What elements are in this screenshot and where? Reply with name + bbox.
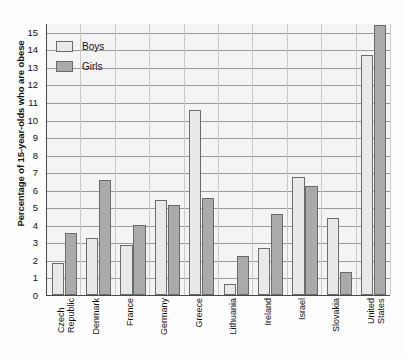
x-axis-label-germany: Germany — [160, 298, 170, 335]
bar-boys-ireland — [258, 248, 270, 295]
x-axis-label-lithuania: Lithuania — [229, 298, 239, 335]
category-separator — [287, 24, 288, 295]
y-axis-tick-label: 11 — [14, 98, 38, 108]
bar-boys-denmark — [86, 238, 98, 295]
y-axis-tick-label: 13 — [14, 63, 38, 73]
bar-boys-greece — [189, 110, 201, 295]
y-axis-tick-label: 6 — [14, 186, 38, 196]
x-axis-label-greece: Greece — [195, 298, 205, 328]
y-axis-tick-label: 12 — [14, 80, 38, 90]
category-separator — [356, 24, 357, 295]
bar-chart: Percentage of 15-year-olds who are obese… — [0, 0, 403, 359]
legend-label-boys: Boys — [82, 41, 104, 52]
category-separator — [390, 24, 391, 295]
legend-swatch-girls — [56, 61, 73, 72]
y-axis-tick-label: 4 — [14, 221, 38, 231]
y-axis-tick-label: 3 — [14, 238, 38, 248]
bar-boys-lithuania — [224, 284, 236, 295]
x-axis-label-ireland: Ireland — [264, 298, 274, 326]
y-axis-tick-label: 2 — [14, 256, 38, 266]
y-axis-tick-label: 1 — [14, 273, 38, 283]
y-axis-tick-label: 9 — [14, 133, 38, 143]
y-axis-tick-label: 8 — [14, 151, 38, 161]
bar-girls-france — [133, 225, 145, 295]
legend-swatch-boys — [56, 41, 73, 52]
y-axis-tick-label: 7 — [14, 168, 38, 178]
bar-girls-greece — [202, 198, 214, 295]
x-axis-label-slovakia: Slovakia — [332, 298, 342, 332]
category-separator — [218, 24, 219, 295]
y-axis-tick-label: 10 — [14, 116, 38, 126]
y-axis-tick-label: 5 — [14, 203, 38, 213]
category-separator — [252, 24, 253, 295]
x-axis-label-france: France — [126, 298, 136, 326]
x-axis-tick-labels: CzechRepublicDenmarkFranceGermanyGreeceL… — [46, 298, 390, 359]
bar-boys-france — [120, 245, 132, 295]
x-axis-label-denmark: Denmark — [92, 298, 102, 335]
legend-item-boys: Boys — [56, 38, 104, 55]
bar-girls-lithuania — [237, 256, 249, 295]
bar-girls-ireland — [271, 214, 283, 295]
x-axis-label-israel: Israel — [298, 298, 308, 320]
bar-girls-germany — [168, 205, 180, 295]
chart-legend: Boys Girls — [56, 38, 104, 78]
category-separator — [321, 24, 322, 295]
legend-item-girls: Girls — [56, 58, 104, 75]
bar-boys-czech-republic — [52, 263, 64, 295]
bar-boys-slovakia — [327, 218, 339, 295]
bar-girls-united-states — [374, 25, 386, 295]
bar-boys-germany — [155, 200, 167, 295]
bar-boys-united-states — [361, 55, 373, 295]
bar-boys-israel — [292, 177, 304, 295]
bar-girls-denmark — [99, 180, 111, 295]
bar-girls-slovakia — [340, 272, 352, 295]
x-axis-label-czech-republic: CzechRepublic — [57, 298, 76, 333]
category-separator — [115, 24, 116, 295]
y-axis-tick-labels: 0123456789101112131415 — [0, 24, 42, 296]
bar-girls-czech-republic — [65, 233, 77, 295]
x-axis-label-united-states: UnitedStates — [367, 298, 386, 324]
category-separator — [149, 24, 150, 295]
y-axis-tick-label: 0 — [14, 291, 38, 301]
y-axis-tick-label: 14 — [14, 45, 38, 55]
category-separator — [184, 24, 185, 295]
legend-label-girls: Girls — [82, 61, 103, 72]
bar-girls-israel — [305, 186, 317, 295]
y-axis-tick-label: 15 — [14, 28, 38, 38]
